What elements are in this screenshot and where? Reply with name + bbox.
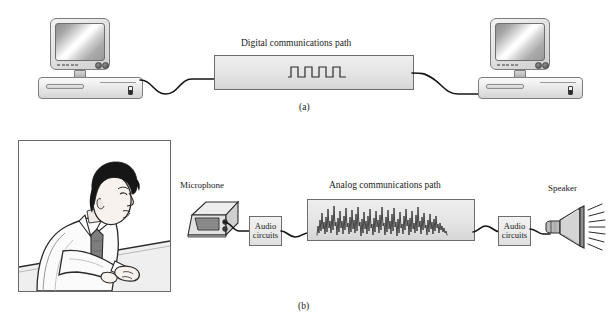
audio-circuits-left-text: Audio circuits: [253, 222, 278, 241]
right-monitor-button-1[interactable]: [535, 62, 542, 69]
right-power-button[interactable]: [568, 86, 573, 95]
digital-path-label: Digital communications path: [241, 39, 351, 49]
path-to-audio-right-cable: [473, 222, 500, 238]
vent: [62, 64, 65, 66]
analog-path-label: Analog communications path: [329, 181, 441, 191]
speaker-device: [544, 202, 606, 250]
microphone-label: Microphone: [180, 181, 224, 190]
speaker-label: Speaker: [548, 184, 577, 193]
left-base-accent-line: [100, 82, 136, 83]
left-monitor-screen: [55, 23, 105, 61]
vent: [502, 64, 505, 66]
panel-a: Digital communications path: [0, 0, 608, 120]
right-drive-slot: [486, 84, 524, 89]
analog-waveform: [317, 202, 447, 238]
left-digital-cable: [140, 74, 216, 100]
left-monitor-vents: [57, 64, 78, 66]
audio-left-to-path-cable: [281, 224, 308, 240]
vent: [515, 64, 518, 66]
right-digital-cable: [412, 70, 484, 100]
vent: [511, 64, 514, 66]
panel-b: Microphone Audio: [0, 120, 608, 322]
digital-square-wave: [288, 60, 346, 82]
right-monitor-button-2[interactable]: [542, 62, 549, 69]
audio-circuits-right-line2: circuits: [502, 230, 527, 240]
left-monitor-button-1[interactable]: [95, 62, 102, 69]
person-illustration-frame: [18, 140, 171, 292]
vent: [75, 64, 78, 66]
vent: [497, 64, 500, 66]
left-monitor-button-2[interactable]: [102, 62, 109, 69]
left-computer: [38, 18, 143, 100]
caption-b: (b): [298, 302, 309, 312]
audio-circuits-right-box: Audio circuits: [498, 216, 531, 246]
person-illustration: [19, 141, 170, 291]
vent: [506, 64, 509, 66]
right-base-accent-line: [540, 82, 576, 83]
right-monitor-screen: [495, 23, 545, 61]
audio-circuits-right-text: Audio circuits: [502, 222, 527, 241]
caption-a: (a): [299, 103, 310, 113]
right-monitor-vents: [497, 64, 518, 66]
left-drive-slot: [46, 84, 84, 89]
right-computer: [478, 18, 583, 100]
vent: [71, 64, 74, 66]
mic-to-audio-cable: [224, 220, 250, 238]
audio-circuits-left-box: Audio circuits: [249, 216, 282, 246]
vent: [66, 64, 69, 66]
left-power-button[interactable]: [128, 86, 133, 95]
vent: [57, 64, 60, 66]
audio-circuits-left-line2: circuits: [253, 230, 278, 240]
figure-container: Digital communications path: [0, 0, 608, 322]
